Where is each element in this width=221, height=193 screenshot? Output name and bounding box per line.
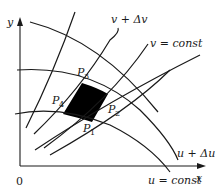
point-p1: P 1 [82, 122, 95, 137]
point-p2: P 2 [107, 103, 120, 118]
y-axis-label: y [6, 16, 14, 29]
origin-label: 0 [16, 175, 23, 188]
shaded-area-element [63, 83, 108, 122]
svg-text:4: 4 [59, 100, 64, 109]
u-curves [26, 12, 170, 155]
y-axis-arrow-icon [17, 17, 23, 26]
u-plus-delta-label: u + Δu [177, 147, 215, 160]
u-const-label: u = const [148, 174, 202, 187]
u-curve-2 [34, 28, 118, 134]
point-p3: P 3 [76, 66, 89, 81]
svg-text:1: 1 [90, 128, 95, 137]
x-axis-arrow-icon [197, 163, 206, 169]
svg-text:2: 2 [115, 109, 120, 118]
svg-text:3: 3 [84, 72, 89, 81]
v-plus-delta-label: v + Δv [111, 13, 148, 26]
v-const-label: v = const [150, 37, 203, 50]
curvilinear-coordinates-diagram: y x 0 v + Δv v = const u + Δu u = const … [0, 0, 221, 193]
point-p4: P 4 [51, 94, 64, 109]
